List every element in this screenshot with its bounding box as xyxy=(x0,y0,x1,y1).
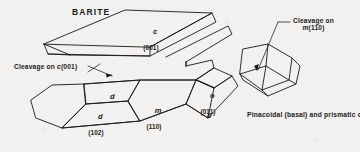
figure-caption: Pinacoidal (basal) and prismatic cleavag… xyxy=(247,110,353,119)
barite-cleavage-figure: BARITE Cleavage on c(001) Cleavage onm(1… xyxy=(0,0,360,152)
face-label-d-102: d (102) xyxy=(83,105,109,152)
face-indices-c: (001) xyxy=(139,44,163,51)
cleavage-c-annotation: Cleavage on c(001) xyxy=(14,63,77,70)
face-label-o-lower: o xyxy=(197,104,213,128)
face-form-d-upper: d xyxy=(110,92,115,101)
leader-arrowheads xyxy=(106,64,259,78)
cleavage-c-indices: (001) xyxy=(61,63,77,70)
face-indices-d-102: (102) xyxy=(83,129,109,136)
face-indices-m-110: (110) xyxy=(141,123,167,130)
cleavage-c-text: Cleavage on xyxy=(14,63,57,70)
face-form-c: c xyxy=(153,27,157,36)
face-label-c-001: c (001) xyxy=(139,20,163,67)
detached-prismatic-fragment xyxy=(240,44,300,96)
face-form-o-lower: o xyxy=(207,111,212,120)
cleavage-m-indices: (110) xyxy=(309,24,325,31)
cleavage-m-annotation: Cleavage onm(110) xyxy=(293,17,334,32)
face-label-m-110: m (110) xyxy=(141,99,167,146)
tabular-cleavage-plate xyxy=(44,10,232,66)
face-form-o-011: o xyxy=(210,91,215,100)
face-form-d-102: d xyxy=(98,112,103,121)
face-form-m-110: m xyxy=(155,106,162,115)
figure-title: BARITE xyxy=(72,8,110,18)
cleavage-m-text: Cleavage on xyxy=(293,17,334,24)
